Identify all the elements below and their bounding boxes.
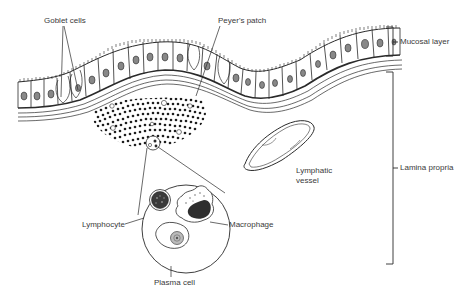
label-peyers-patch: Peyer's patch — [218, 16, 266, 26]
lymphatic-vessel — [244, 121, 314, 171]
label-plasma-cell: Plasma cell — [154, 278, 195, 288]
label-lymphatic-vessel-line2: vessel — [296, 176, 319, 186]
diagram-canvas: Goblet cells Peyer's patch Mucosal layer… — [0, 0, 471, 306]
lymphocyte-cell — [150, 190, 171, 211]
label-macrophage: Macrophage — [229, 220, 273, 230]
label-mucosal-layer: Mucosal layer — [400, 37, 449, 47]
layer-brackets — [386, 27, 398, 264]
label-lymphatic-vessel-line1: Lymphatic — [296, 166, 332, 176]
label-lymphocyte: Lymphocyte — [82, 220, 125, 230]
label-goblet-cells: Goblet cells — [44, 16, 86, 26]
lamina-propria-bracket — [386, 72, 398, 264]
magnify-source-circle — [146, 136, 160, 150]
cell-nuclei — [21, 39, 396, 100]
microvilli-brush-border — [20, 25, 396, 82]
label-lamina-propria: Lamina propria — [400, 163, 453, 173]
magnified-view — [142, 185, 230, 273]
